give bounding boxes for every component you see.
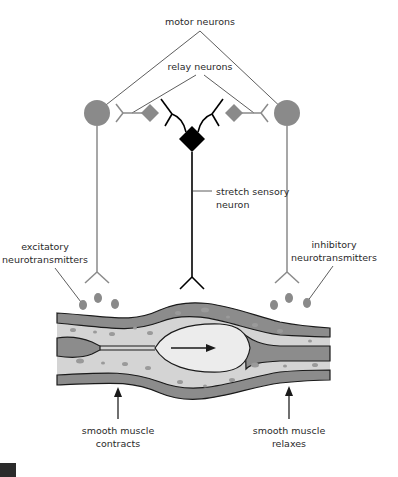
excitatory-neurotransmitters — [79, 293, 119, 310]
relaxes-arrow — [285, 386, 293, 419]
relaxes-label-line1: smooth muscle — [253, 425, 326, 436]
corner-mark — [0, 463, 16, 477]
excitatory-label-line2: neurotransmitters — [2, 254, 88, 265]
excitatory-label-line1: excitatory — [21, 241, 69, 252]
contracts-label-line1: smooth muscle — [82, 425, 155, 436]
inhibitory-leader — [307, 266, 333, 302]
reflex-diagram: motor neurons relay neurons — [0, 0, 398, 477]
relaxes-label-line2: relaxes — [272, 438, 306, 449]
stretch-sensory-neuron — [161, 99, 223, 289]
smooth-muscle-tube — [57, 303, 330, 400]
contracts-arrow — [114, 387, 122, 419]
right-relay-neuron — [225, 104, 268, 122]
inhibitory-neurotransmitters — [270, 293, 311, 310]
contracts-label-line2: contracts — [96, 438, 140, 449]
inhibitory-label-line2: neurotransmitters — [291, 252, 377, 263]
excitatory-leader — [55, 268, 84, 306]
stretch-sensory-neuron-label-line2: neuron — [216, 199, 249, 210]
inhibitory-label-line1: inhibitory — [311, 239, 356, 250]
stretch-sensory-neuron-label-line1: stretch sensory — [216, 186, 290, 197]
motor-neurons-label: motor neurons — [165, 16, 235, 27]
left-relay-neuron — [116, 104, 159, 122]
relay-neurons-label: relay neurons — [167, 61, 232, 72]
